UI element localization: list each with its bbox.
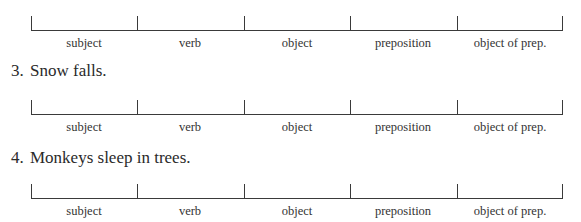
exercise-number: 4. (11, 148, 30, 168)
exercise-3: 3.Snow falls. (11, 61, 107, 81)
sentence-diagram-3: subject verb object preposition object o… (0, 100, 581, 140)
label-preposition: preposition (350, 120, 456, 135)
diagram-tick (244, 184, 245, 199)
label-object: object (244, 120, 350, 135)
diagram-tick (350, 184, 351, 199)
exercise-sentence: Snow falls. (30, 61, 107, 80)
diagram-baseline (31, 114, 563, 115)
sentence-diagram-4: subject verb object preposition object o… (0, 184, 581, 222)
diagram-tick (31, 16, 32, 31)
exercise-number: 3. (11, 61, 30, 81)
diagram-baseline (31, 30, 563, 31)
diagram-tick (137, 100, 138, 115)
diagram-tick (137, 184, 138, 199)
label-subject: subject (31, 120, 137, 135)
diagram-tick (137, 16, 138, 31)
diagram-tick (31, 100, 32, 115)
diagram-tick (350, 100, 351, 115)
label-preposition: preposition (350, 204, 456, 219)
label-verb: verb (137, 120, 243, 135)
diagram-tick (562, 100, 563, 115)
diagram-tick (562, 16, 563, 31)
label-object-of-prep: object of prep. (457, 120, 563, 135)
label-preposition: preposition (350, 36, 456, 51)
label-object: object (244, 204, 350, 219)
label-object-of-prep: object of prep. (457, 36, 563, 51)
diagram-tick (457, 100, 458, 115)
label-object-of-prep: object of prep. (457, 204, 563, 219)
diagram-tick (244, 16, 245, 31)
diagram-tick (350, 16, 351, 31)
label-subject: subject (31, 36, 137, 51)
label-subject: subject (31, 204, 137, 219)
diagram-baseline (31, 198, 563, 199)
diagram-tick (457, 184, 458, 199)
label-verb: verb (137, 204, 243, 219)
diagram-tick (562, 184, 563, 199)
exercise-4: 4.Monkeys sleep in trees. (11, 148, 191, 168)
sentence-diagram-1: subject verb object preposition object o… (0, 16, 581, 56)
label-verb: verb (137, 36, 243, 51)
label-object: object (244, 36, 350, 51)
diagram-tick (31, 184, 32, 199)
diagram-tick (457, 16, 458, 31)
diagram-tick (244, 100, 245, 115)
exercise-sentence: Monkeys sleep in trees. (30, 148, 191, 167)
